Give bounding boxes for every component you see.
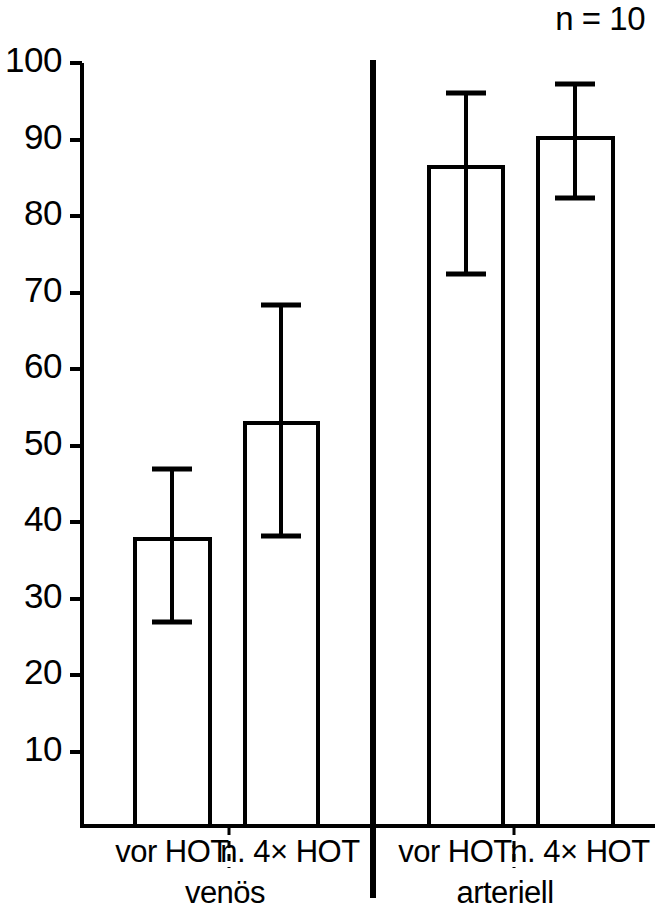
y-tick-label-50: 50 bbox=[24, 423, 62, 462]
y-tick-label-70: 70 bbox=[24, 270, 62, 309]
y-tick-label-90: 90 bbox=[24, 117, 62, 156]
y-tick-label-10: 10 bbox=[24, 729, 62, 768]
category-label-venoes-n4x-hot: n. 4× HOT bbox=[220, 834, 360, 869]
bar-group-arteriell-vor-hot[interactable] bbox=[429, 93, 503, 826]
group-label-arteriell: arteriell bbox=[456, 875, 553, 910]
y-tick-label-40: 40 bbox=[24, 499, 62, 538]
bar-chart-canvas: 100 90 80 70 60 50 40 30 20 10 vor HOT n… bbox=[0, 0, 661, 913]
y-tick-label-60: 60 bbox=[24, 346, 62, 385]
group-label-venoes: venös bbox=[185, 875, 265, 910]
y-tick-label-30: 30 bbox=[24, 576, 62, 615]
bar-rect[interactable] bbox=[538, 138, 613, 826]
chart-figure: 100 90 80 70 60 50 40 30 20 10 vor HOT n… bbox=[0, 0, 661, 913]
category-label-arteriell-n4x-hot: n. 4× HOT bbox=[510, 834, 650, 869]
category-label-venoes-vor-hot: vor HOT bbox=[115, 834, 229, 869]
y-tick-label-100: 100 bbox=[5, 40, 62, 79]
y-tick-label-80: 80 bbox=[24, 193, 62, 232]
bar-group-arteriell-n4x-hot[interactable] bbox=[538, 84, 613, 826]
y-tick-label-20: 20 bbox=[24, 652, 62, 691]
sample-size-annotation: n = 10 bbox=[555, 0, 645, 37]
category-label-arteriell-vor-hot: vor HOT bbox=[398, 834, 512, 869]
